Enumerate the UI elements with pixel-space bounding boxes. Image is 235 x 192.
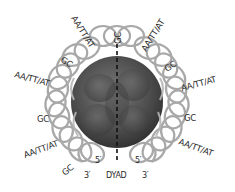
label-left-5: AA/TT/AT (22, 138, 60, 160)
label-dyad: DYAD (106, 171, 127, 180)
label-top-gc: GC (113, 32, 123, 44)
label-right-5prime: 5′ (135, 156, 142, 165)
label-left-6: GC (60, 162, 76, 178)
label-right-4: GC (184, 113, 196, 123)
label-right-3prime: 3′ (142, 171, 149, 180)
label-left-5prime: 5′ (95, 156, 102, 165)
label-right-5: AA/TT/AT (177, 136, 215, 158)
nucleosome-diagram: GC AA/TT/AT GC AA/TT/AT GC AA/TT/AT GC A… (0, 0, 235, 192)
label-left-3prime: 3′ (84, 171, 91, 180)
label-left-4: GC (37, 114, 49, 124)
label-left-3: AA/TT/AT (13, 69, 51, 88)
